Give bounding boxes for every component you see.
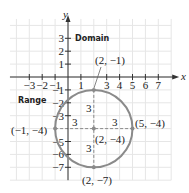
point-left: [53, 127, 57, 131]
y-axis-label: y: [62, 8, 68, 20]
point-top: [92, 88, 96, 92]
y-tick-label: −7: [52, 161, 64, 173]
x-tick-label: 7: [156, 79, 162, 91]
point-label-top: (2, −1): [95, 54, 125, 67]
x-tick-label: −3: [23, 79, 35, 91]
x-tick-label: 4: [117, 79, 123, 91]
range-label: Range: [18, 96, 47, 105]
x-tick-label: 5: [130, 79, 136, 91]
radius-label-left: 3: [72, 116, 78, 128]
y-tick-label: −1: [52, 84, 64, 96]
x-tick-label: −2: [36, 79, 48, 91]
point-right: [131, 127, 135, 131]
y-tick-label: 1: [59, 58, 65, 70]
radius-label-down: 3: [86, 142, 92, 154]
point-label-bottom: (2, −7): [82, 174, 112, 187]
point-label-left: (−1, −4): [11, 124, 48, 137]
radius-label-up: 3: [86, 102, 92, 114]
x-tick-label: 3: [104, 79, 110, 91]
circle-domain-range-diagram: −3−2−1134567321−1−2−3−5−6−7 y x Domain R…: [0, 0, 189, 193]
x-axis-label: x: [180, 70, 186, 82]
x-axis-arrow-icon: [172, 75, 179, 80]
radius-label-right: 3: [112, 116, 118, 128]
y-tick-label: 2: [59, 45, 65, 57]
x-tick-label: 1: [78, 79, 84, 91]
y-tick-label: 3: [59, 32, 65, 44]
point-label-right: (5, −4): [135, 117, 165, 130]
domain-label: Domain: [75, 34, 110, 43]
x-tick-label: 6: [143, 79, 149, 91]
point-center: [92, 127, 96, 131]
point-label-center: (2, −4): [95, 133, 125, 146]
point-bottom: [92, 165, 96, 169]
